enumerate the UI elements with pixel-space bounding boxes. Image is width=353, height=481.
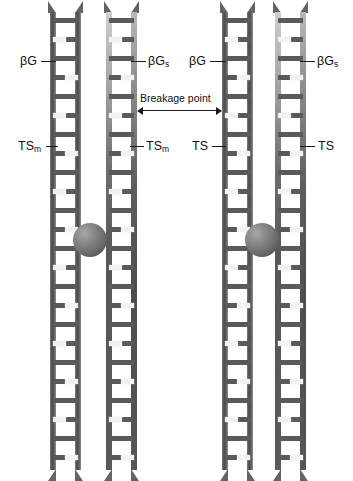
breakage-point-arrow: [143, 110, 216, 111]
chromosome-breakage-figure: βG βGs βG βGs TSm TSm TS TS Breakage poi…: [0, 0, 353, 481]
label-ts-m-left: TSm: [18, 140, 41, 153]
breakage-point-label: Breakage point: [140, 92, 211, 104]
arrow-head-left-icon: [137, 107, 143, 115]
chromatid-bottom-flare: [50, 469, 81, 481]
leader-ts-m-mid: [130, 146, 144, 147]
chromatid-4: [275, 12, 306, 470]
leader-beta-g-s-right: [300, 61, 315, 62]
label-ts-right: TS: [318, 140, 334, 153]
leader-ts-m-left: [46, 146, 58, 147]
label-beta-g-right: βG: [189, 55, 206, 68]
label-beta-g-s-left: βGs: [148, 55, 169, 68]
label-beta-g-left: βG: [20, 55, 37, 68]
chromatid-bottom-flare: [106, 469, 137, 481]
chromatid-2: [106, 12, 137, 470]
arrow-head-right-icon: [216, 107, 222, 115]
label-beta-g-s-right: βGs: [317, 55, 338, 68]
leader-beta-g-s-left: [131, 61, 146, 62]
label-ts-m-mid: TSm: [146, 140, 169, 153]
centromere-left: [73, 223, 107, 257]
centromere-right: [245, 223, 279, 257]
chromatid-bottom-flare: [275, 469, 306, 481]
label-ts-left2: TS: [192, 140, 208, 153]
chromatid-bottom-flare: [222, 469, 253, 481]
leader-ts-left2: [212, 146, 226, 147]
leader-beta-g-left: [41, 61, 56, 62]
leader-ts-right: [300, 146, 315, 147]
leader-beta-g-right: [210, 61, 226, 62]
